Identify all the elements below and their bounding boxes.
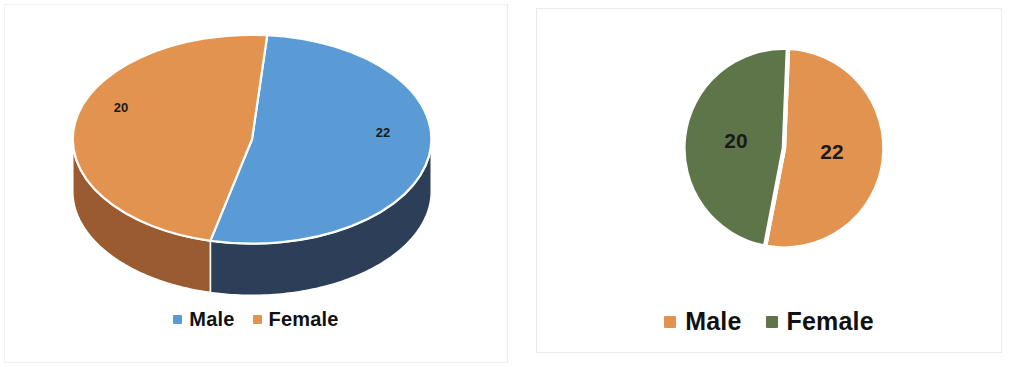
pie-flat-label-female: 20 xyxy=(724,129,747,152)
pie-flat-svg: 2220 xyxy=(537,9,1001,352)
legend-swatch-male xyxy=(664,316,676,328)
screenshot-canvas: 2220 Male Female 2220 Male xyxy=(0,0,1016,367)
pie-3d-label-female: 20 xyxy=(114,100,128,115)
legend-label-male: Male xyxy=(685,307,741,336)
legend-swatch-female xyxy=(766,316,778,328)
legend-item-male[interactable]: Male xyxy=(664,307,741,336)
legend-item-female[interactable]: Female xyxy=(253,308,339,331)
legend-label-male: Male xyxy=(189,308,234,331)
legend-item-male[interactable]: Male xyxy=(173,308,234,331)
legend-swatch-male xyxy=(173,315,182,324)
pie-3d-label-male: 22 xyxy=(376,125,390,140)
pie-3d-legend: Male Female xyxy=(5,308,507,331)
pie-flat-legend: Male Female xyxy=(537,307,1001,336)
chart-panel-left: 2220 Male Female xyxy=(4,4,508,363)
legend-label-female: Female xyxy=(269,308,339,331)
pie-flat-slices xyxy=(683,48,884,249)
legend-item-female[interactable]: Female xyxy=(766,307,874,336)
pie-flat-plot-area: 2220 xyxy=(537,9,1001,352)
chart-panel-right: 2220 Male Female xyxy=(536,8,1002,353)
pie-flat-label-male: 22 xyxy=(820,140,843,163)
legend-swatch-female xyxy=(253,315,262,324)
legend-label-female: Female xyxy=(787,307,874,336)
